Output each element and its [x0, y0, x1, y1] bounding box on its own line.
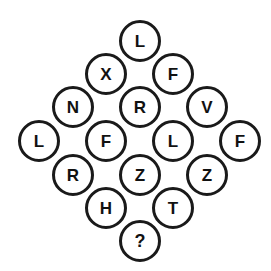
letter-circle[interactable]: L: [18, 120, 60, 162]
letter-circle-label: T: [168, 199, 178, 216]
letter-circle-label: V: [201, 98, 212, 115]
letter-circle-label: F: [101, 132, 111, 149]
puzzle-canvas: LXFNRVLFLFRZZHT?: [0, 0, 271, 271]
letter-circle-label: Z: [135, 166, 145, 183]
letter-circle[interactable]: Z: [186, 154, 228, 196]
letter-circle-label: H: [100, 199, 112, 216]
letter-circle[interactable]: L: [119, 20, 161, 62]
letter-circle[interactable]: R: [52, 154, 94, 196]
letter-circle-label: R: [67, 166, 79, 183]
letter-circle-label: F: [168, 65, 178, 82]
letter-circle[interactable]: L: [152, 120, 194, 162]
letter-circle[interactable]: Z: [119, 154, 161, 196]
letter-circle[interactable]: T: [152, 187, 194, 229]
letter-circle[interactable]: N: [52, 86, 94, 128]
letter-circle[interactable]: H: [85, 187, 127, 229]
letter-circle[interactable]: X: [85, 53, 127, 95]
letter-circle-label: L: [34, 132, 44, 149]
letter-circle-label: ?: [135, 232, 146, 250]
letter-circle[interactable]: V: [186, 86, 228, 128]
letter-circle[interactable]: F: [152, 53, 194, 95]
letter-circle-label: L: [168, 132, 178, 149]
letter-circle[interactable]: F: [85, 120, 127, 162]
letter-circle-label: F: [235, 132, 245, 149]
letter-circle-label: X: [100, 65, 111, 82]
letter-circle[interactable]: F: [219, 120, 261, 162]
letter-circle-label: L: [135, 32, 145, 49]
letter-circle-unknown[interactable]: ?: [119, 220, 161, 262]
letter-circle-label: R: [134, 98, 146, 115]
letter-circle[interactable]: R: [119, 86, 161, 128]
letter-circle-label: N: [67, 98, 79, 115]
letter-circle-label: Z: [202, 166, 212, 183]
